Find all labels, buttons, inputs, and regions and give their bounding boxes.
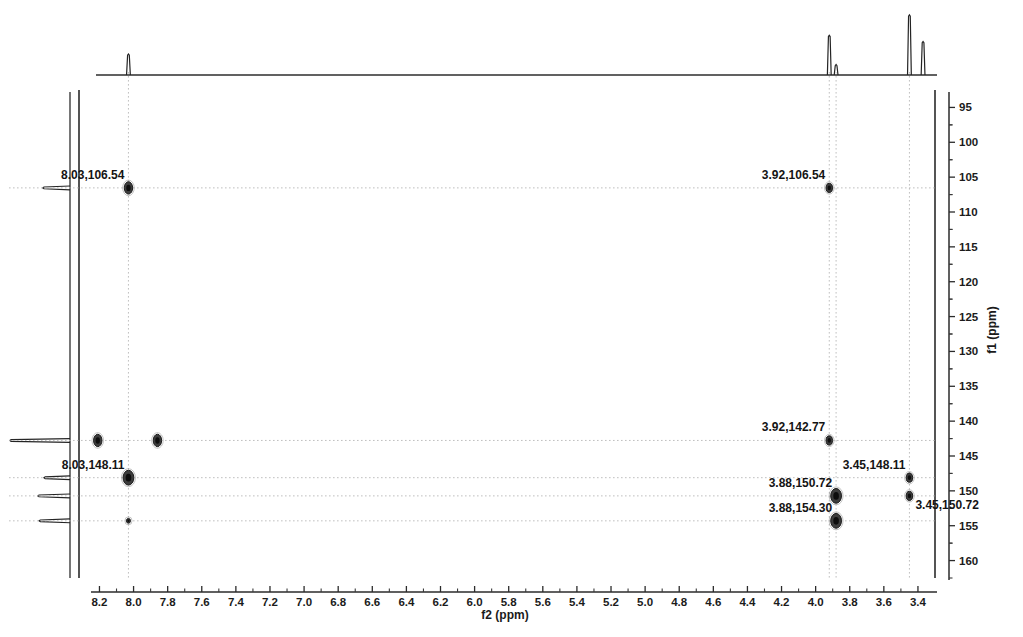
peak-coordinate-label: 8.03,148.11 — [62, 458, 125, 472]
x-tick-label: 7.4 — [228, 596, 245, 608]
f2-projection-trace — [96, 15, 937, 75]
x-tick-label: 6.2 — [432, 596, 448, 608]
x-tick-label: 5.0 — [637, 596, 653, 608]
x-tick-label: 5.8 — [501, 596, 518, 608]
f2-projection-peak — [827, 35, 831, 75]
nmr-spectrum-figure: 8.28.07.87.67.47.27.06.86.66.46.26.05.85… — [0, 0, 1023, 637]
x-tick-label: 3.4 — [910, 596, 927, 608]
x-tick-label: 8.2 — [91, 596, 107, 608]
y-tick-label: 130 — [959, 345, 978, 357]
y-tick-label: 160 — [959, 555, 978, 567]
x-tick-label: 6.0 — [467, 596, 483, 608]
peak-marker — [92, 433, 104, 449]
x-axis-title: f2 (ppm) — [481, 608, 528, 622]
y-tick-label: 95 — [959, 101, 972, 113]
x-tick-label: 4.6 — [705, 596, 721, 608]
y-tick-label: 145 — [959, 450, 979, 462]
x-tick-label: 6.4 — [398, 596, 415, 608]
spectrum-canvas: 8.28.07.87.67.47.27.06.86.66.46.26.05.85… — [0, 0, 1023, 637]
x-tick-label: 4.8 — [671, 596, 688, 608]
y-tick-label: 110 — [959, 206, 978, 218]
y-tick-label: 140 — [959, 415, 978, 427]
peak-coordinate-label: 3.88,150.72 — [769, 476, 833, 490]
y-tick-label: 120 — [959, 276, 978, 288]
x-tick-label: 8.0 — [126, 596, 142, 608]
x-tick-label: 5.2 — [603, 596, 619, 608]
x-tick-label: 5.4 — [569, 596, 586, 608]
peak-coordinate-label: 3.92,106.54 — [762, 168, 826, 182]
y-tick-label: 115 — [959, 241, 978, 253]
x-tick-label: 4.4 — [739, 596, 756, 608]
y-axis-title: f1 (ppm) — [985, 306, 999, 353]
x-tick-label: 4.2 — [774, 596, 790, 608]
x-tick-label: 7.0 — [296, 596, 312, 608]
x-tick-label: 6.8 — [330, 596, 347, 608]
x-tick-label: 4.0 — [808, 596, 824, 608]
f2-projection-peak — [908, 15, 912, 75]
peak-labels: 8.03,106.543.92,106.543.92,142.778.03,14… — [61, 168, 979, 515]
x-axis: 8.28.07.87.67.47.27.06.86.66.46.26.05.85… — [91, 586, 937, 608]
x-tick-label: 7.2 — [262, 596, 278, 608]
x-tick-label: 3.6 — [876, 596, 892, 608]
y-tick-label: 150 — [959, 485, 978, 497]
peak-marker — [824, 182, 834, 194]
peak-marker — [905, 471, 915, 483]
f2-projection-peak — [127, 54, 131, 75]
peak-coordinate-label: 3.45,148.11 — [843, 458, 906, 472]
peak-coordinate-label: 3.88,154.30 — [769, 501, 833, 515]
peak-marker — [905, 490, 915, 502]
x-tick-label: 6.6 — [364, 596, 380, 608]
f1-projection-peak — [10, 439, 70, 443]
f1-projection-trace — [10, 92, 70, 578]
peak-coordinate-label: 8.03,106.54 — [61, 168, 125, 182]
y-tick-label: 135 — [959, 380, 979, 392]
x-tick-label: 3.8 — [842, 596, 859, 608]
peak-marker — [123, 180, 135, 196]
y-tick-label: 100 — [959, 136, 978, 148]
x-tick-label: 5.6 — [535, 596, 551, 608]
y-tick-label: 125 — [959, 311, 979, 323]
peak-marker — [824, 434, 834, 446]
x-tick-label: 7.8 — [160, 596, 177, 608]
peak-coordinate-label: 3.45,150.72 — [915, 498, 979, 512]
peak-marker — [152, 433, 164, 449]
y-tick-label: 105 — [959, 171, 979, 183]
peak-coordinate-label: 3.92,142.77 — [762, 420, 826, 434]
y-tick-label: 155 — [959, 520, 979, 532]
f2-projection-peak — [921, 42, 925, 75]
x-tick-label: 7.6 — [194, 596, 210, 608]
